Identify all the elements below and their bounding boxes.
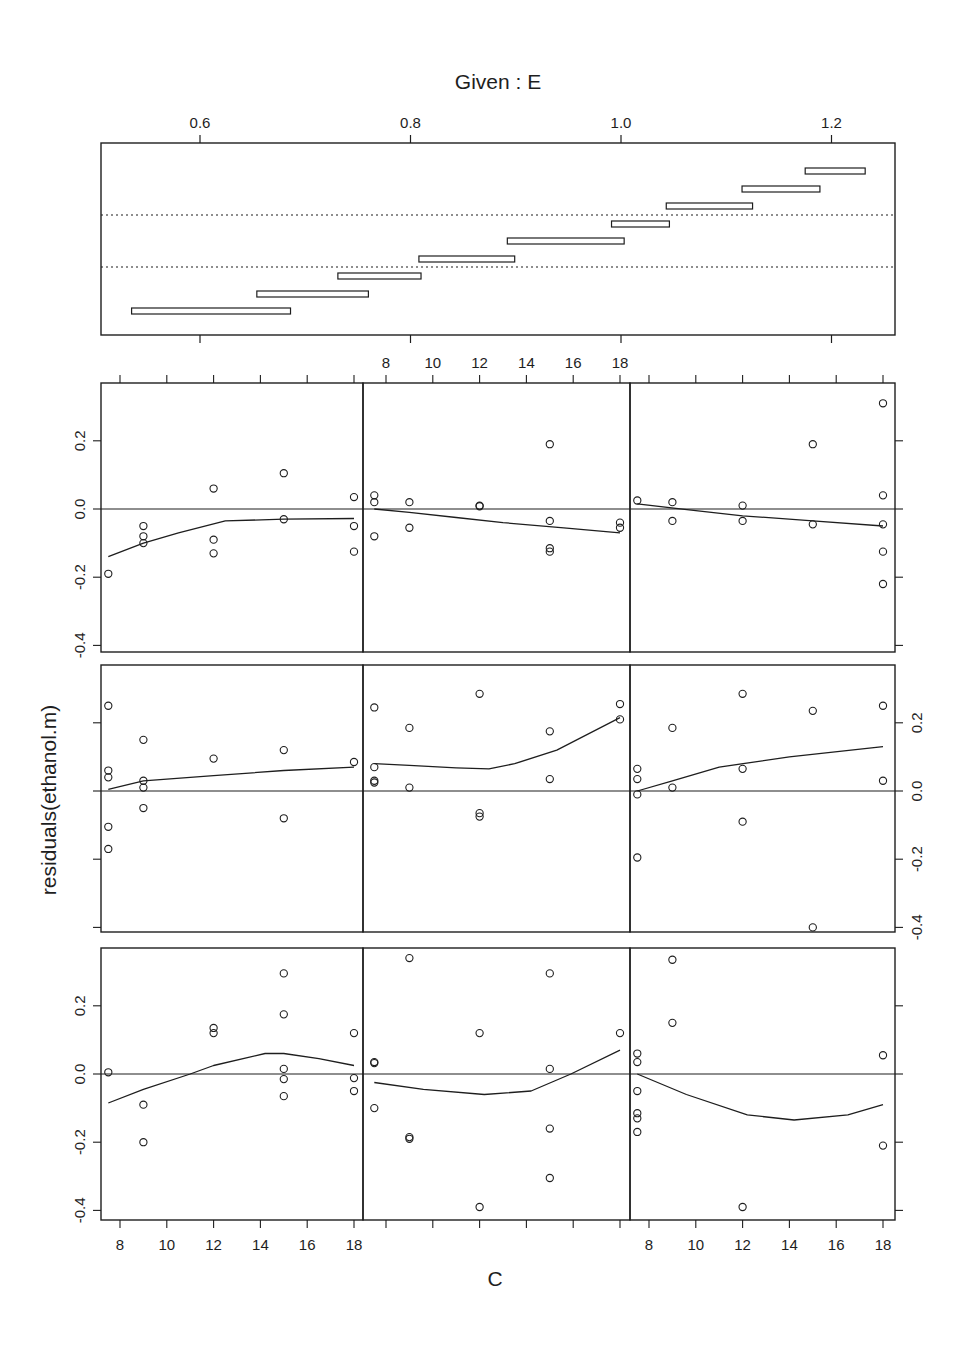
data-point bbox=[634, 1115, 641, 1122]
given-interval-bar bbox=[132, 308, 291, 314]
panel-frame bbox=[101, 383, 363, 652]
data-point bbox=[350, 1087, 357, 1094]
data-point bbox=[350, 1029, 357, 1036]
panel-frame bbox=[363, 383, 630, 652]
panel-r3-c1: 81012141618-0.4-0.20.00.2 bbox=[71, 948, 363, 1253]
data-point bbox=[669, 1019, 676, 1026]
x-tick-label: 16 bbox=[828, 1236, 845, 1253]
data-point bbox=[634, 791, 641, 798]
data-point bbox=[634, 854, 641, 861]
panel-grid: -0.4-0.20.00.281012141618-0.4-0.20.00.28… bbox=[71, 354, 925, 1253]
data-point bbox=[546, 970, 553, 977]
y-tick-label: 0.0 bbox=[71, 499, 88, 520]
data-point bbox=[879, 777, 886, 784]
given-panel-title: Given : E bbox=[455, 70, 541, 93]
x-tick-label: 16 bbox=[565, 354, 582, 371]
y-tick-label: -0.2 bbox=[71, 1129, 88, 1155]
data-point bbox=[739, 517, 746, 524]
data-point bbox=[371, 492, 378, 499]
smooth-curve bbox=[108, 1054, 354, 1104]
data-point bbox=[210, 536, 217, 543]
data-point bbox=[406, 1133, 413, 1140]
data-point bbox=[634, 497, 641, 504]
data-point bbox=[879, 1052, 886, 1059]
data-point bbox=[210, 755, 217, 762]
x-tick-label: 8 bbox=[645, 1236, 653, 1253]
data-point bbox=[371, 499, 378, 506]
data-point bbox=[669, 784, 676, 791]
data-point bbox=[105, 767, 112, 774]
panel-frame bbox=[363, 948, 630, 1220]
data-point bbox=[616, 524, 623, 531]
data-point bbox=[406, 524, 413, 531]
given-interval-bar bbox=[507, 238, 624, 244]
y-tick-label: 0.0 bbox=[908, 781, 925, 802]
data-point bbox=[809, 707, 816, 714]
y-axis-label: residuals(ethanol.m) bbox=[37, 705, 60, 895]
x-tick-label: 16 bbox=[299, 1236, 316, 1253]
given-interval-bar bbox=[338, 273, 421, 279]
data-point bbox=[280, 1076, 287, 1083]
data-point bbox=[879, 400, 886, 407]
y-tick-label: 0.2 bbox=[908, 712, 925, 733]
data-point bbox=[140, 736, 147, 743]
data-point bbox=[739, 690, 746, 697]
given-interval-bar bbox=[257, 291, 369, 297]
data-point bbox=[350, 548, 357, 555]
x-tick-label: 12 bbox=[205, 1236, 222, 1253]
x-tick-label: 8 bbox=[116, 1236, 124, 1253]
data-point bbox=[350, 493, 357, 500]
x-tick-label: 10 bbox=[687, 1236, 704, 1253]
smooth-curve bbox=[637, 504, 883, 526]
data-point bbox=[546, 1125, 553, 1132]
data-point bbox=[739, 502, 746, 509]
data-point bbox=[879, 492, 886, 499]
x-tick-label: 18 bbox=[875, 1236, 892, 1253]
x-tick-label: 12 bbox=[734, 1236, 751, 1253]
panel-r2-c1 bbox=[93, 665, 363, 932]
panel-r1-c1: -0.4-0.20.00.2 bbox=[71, 375, 363, 658]
panel-r1-c2: 81012141618 bbox=[363, 354, 630, 652]
x-tick-label: 10 bbox=[158, 1236, 175, 1253]
x-tick-label: 14 bbox=[252, 1236, 269, 1253]
data-point bbox=[280, 1093, 287, 1100]
data-point bbox=[546, 1065, 553, 1072]
data-point bbox=[105, 570, 112, 577]
x-tick-label: 18 bbox=[612, 354, 629, 371]
data-point bbox=[406, 1135, 413, 1142]
panel-r1-c3 bbox=[630, 375, 903, 652]
data-point bbox=[634, 1087, 641, 1094]
panel-frame bbox=[363, 665, 630, 932]
data-point bbox=[406, 784, 413, 791]
panel-frame bbox=[630, 665, 895, 932]
x-tick-label: 12 bbox=[471, 354, 488, 371]
y-tick-label: -0.2 bbox=[908, 846, 925, 872]
panel-frame bbox=[101, 948, 363, 1220]
data-point bbox=[406, 954, 413, 961]
data-point bbox=[140, 784, 147, 791]
smooth-curve bbox=[108, 519, 354, 557]
coplot: Given : E 0.60.81.01.2 -0.4-0.20.00.2810… bbox=[0, 0, 964, 1347]
given-tick-label: 1.0 bbox=[611, 114, 632, 131]
data-point bbox=[546, 517, 553, 524]
data-point bbox=[879, 1142, 886, 1149]
data-point bbox=[669, 724, 676, 731]
given-interval-bar bbox=[666, 203, 752, 209]
y-tick-label: -0.4 bbox=[71, 1197, 88, 1223]
y-tick-label: -0.4 bbox=[908, 914, 925, 940]
data-point bbox=[371, 533, 378, 540]
data-point bbox=[634, 1128, 641, 1135]
y-tick-label: -0.2 bbox=[71, 564, 88, 590]
data-point bbox=[371, 777, 378, 784]
data-point bbox=[546, 441, 553, 448]
data-point bbox=[280, 1065, 287, 1072]
given-panel: 0.60.81.01.2 bbox=[101, 114, 895, 343]
data-point bbox=[634, 765, 641, 772]
data-point bbox=[669, 499, 676, 506]
data-point bbox=[280, 970, 287, 977]
data-point bbox=[809, 924, 816, 931]
smooth-curve bbox=[374, 509, 620, 533]
panel-r2-c3: -0.4-0.20.00.2 bbox=[630, 665, 925, 940]
panel-frame bbox=[630, 948, 895, 1220]
data-point bbox=[371, 704, 378, 711]
